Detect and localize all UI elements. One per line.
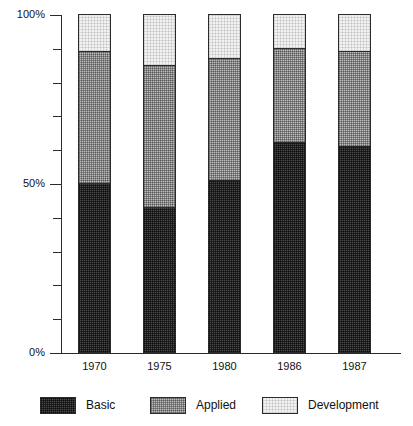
- y-axis-tick-label: 50%: [23, 178, 45, 189]
- bar-segment-development: [208, 14, 241, 59]
- y-axis-tick-label: 100%: [17, 9, 45, 20]
- legend-item-development: Development: [262, 394, 379, 416]
- y-axis-minor-tick: [53, 116, 62, 117]
- y-axis-major-tick: [50, 184, 62, 185]
- bar-1986: [273, 15, 306, 353]
- bar-segment-applied: [273, 48, 306, 144]
- bar-segment-applied: [78, 51, 111, 184]
- y-axis-major-tick: [50, 353, 62, 354]
- y-axis-minor-tick: [53, 150, 62, 151]
- bar-segment-basic: [273, 142, 306, 353]
- legend-label: Applied: [196, 399, 236, 412]
- legend-item-basic: Basic: [40, 394, 115, 416]
- x-axis-tick-label: 1975: [133, 360, 186, 372]
- chart-legend: BasicAppliedDevelopment: [40, 394, 380, 416]
- bar-segment-development: [78, 14, 111, 52]
- bar-segment-basic: [143, 207, 176, 353]
- bar-1980: [208, 15, 241, 353]
- bar-segment-applied: [208, 58, 241, 181]
- bar-segment-basic: [78, 183, 111, 353]
- bar-segment-applied: [143, 65, 176, 208]
- y-axis-major-tick: [50, 15, 62, 16]
- legend-swatch-icon: [40, 397, 76, 414]
- bar-segment-basic: [338, 146, 371, 353]
- y-axis-minor-tick: [53, 319, 62, 320]
- bar-segment-development: [143, 14, 176, 66]
- x-axis-line: [61, 353, 401, 354]
- y-axis-tick-label: 0%: [29, 347, 45, 358]
- bar-segment-development: [273, 14, 306, 49]
- bar-1970: [78, 15, 111, 353]
- plot-area: [62, 15, 400, 353]
- y-axis-minor-tick: [53, 83, 62, 84]
- legend-swatch-icon: [262, 397, 298, 414]
- bar-segment-development: [338, 14, 371, 52]
- x-axis-tick-label: 1986: [263, 360, 316, 372]
- bar-segment-applied: [338, 51, 371, 147]
- y-axis-minor-tick: [53, 252, 62, 253]
- y-axis-minor-tick: [53, 49, 62, 50]
- x-axis-tick-label: 1970: [68, 360, 121, 372]
- x-axis-tick-label: 1987: [328, 360, 381, 372]
- y-axis-minor-tick: [53, 218, 62, 219]
- x-axis-tick-label: 1980: [198, 360, 251, 372]
- legend-swatch-icon: [150, 397, 186, 414]
- legend-item-applied: Applied: [150, 394, 236, 416]
- legend-label: Development: [308, 399, 379, 412]
- legend-label: Basic: [86, 399, 115, 412]
- y-axis-minor-tick: [53, 285, 62, 286]
- bar-segment-basic: [208, 180, 241, 353]
- bar-1987: [338, 15, 371, 353]
- stacked-bar-chart: 0%50%100% 19701975198019861987 BasicAppl…: [0, 0, 413, 426]
- bar-1975: [143, 15, 176, 353]
